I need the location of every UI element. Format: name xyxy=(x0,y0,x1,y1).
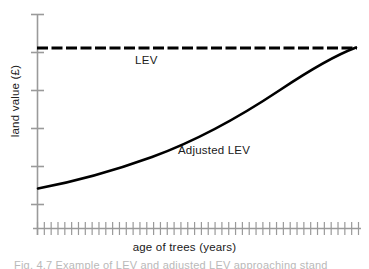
adjusted-lev-curve xyxy=(38,48,356,189)
adjusted-lev-series-label: Adjusted LEV xyxy=(178,145,250,157)
y-axis-title: land value (£) xyxy=(10,31,22,171)
figure-container: LEV Adjusted LEV age of trees (years) la… xyxy=(0,0,369,269)
y-axis-title-wrapper: land value (£) xyxy=(10,31,26,171)
x-axis-title: age of trees (years) xyxy=(0,242,369,254)
figure-caption: Fig. 4.7 Example of LEV and adjusted LEV… xyxy=(14,259,359,269)
lev-series-label: LEV xyxy=(135,55,158,67)
chart-plot-area xyxy=(0,0,369,269)
